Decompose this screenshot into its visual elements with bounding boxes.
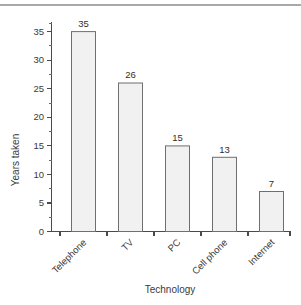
x-tick-label-tv: TV — [119, 236, 136, 253]
x-tick-label-pc: PC — [165, 237, 182, 254]
y-tick-label-25: 25 — [33, 83, 44, 94]
x-axis-title: Technology — [145, 284, 196, 295]
y-tick-label-0: 0 — [39, 226, 44, 237]
x-axis-category-labels: Telephone TV PC Cell phone Internet — [50, 236, 277, 276]
value-label-cell-phone: 13 — [219, 144, 230, 155]
y-tick-label-20: 20 — [33, 111, 44, 122]
bar-internet[interactable] — [260, 192, 284, 232]
bar-tv[interactable] — [119, 83, 143, 232]
bar-telephone[interactable] — [72, 32, 96, 232]
x-axis-ticks — [60, 232, 290, 237]
x-tick-label-internet: Internet — [246, 236, 277, 267]
value-label-pc: 15 — [172, 132, 183, 143]
x-tick-label-telephone: Telephone — [50, 237, 89, 276]
bar-pc[interactable] — [166, 146, 190, 232]
bar-cell-phone[interactable] — [213, 157, 237, 231]
y-tick-label-5: 5 — [39, 197, 44, 208]
y-tick-label-15: 15 — [33, 140, 44, 151]
chart-canvas: 0 5 10 15 20 25 30 35 35 — [0, 0, 301, 305]
y-tick-label-35: 35 — [33, 26, 44, 37]
y-tick-label-30: 30 — [33, 54, 44, 65]
x-tick-label-cell-phone: Cell phone — [190, 237, 230, 277]
y-tick-label-10: 10 — [33, 169, 44, 180]
y-axis-title: Years taken — [10, 134, 21, 186]
y-axis-tick-labels: 0 5 10 15 20 25 30 35 — [33, 26, 44, 237]
value-label-tv: 26 — [125, 69, 136, 80]
value-label-telephone: 35 — [78, 18, 89, 29]
bar-chart-figure: 0 5 10 15 20 25 30 35 35 — [0, 0, 301, 305]
value-label-internet: 7 — [269, 178, 274, 189]
